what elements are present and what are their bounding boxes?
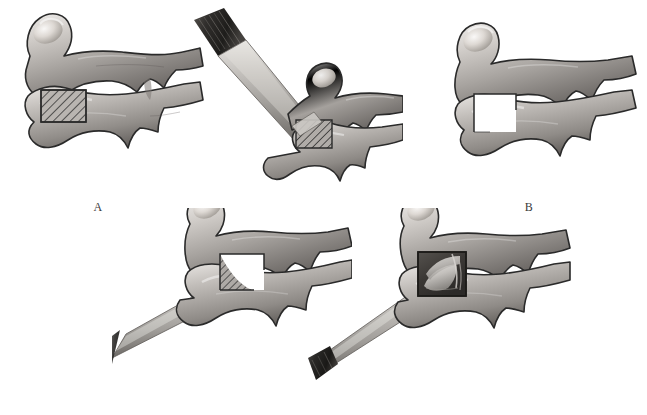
resection-zone-a <box>41 90 86 122</box>
excised-notch-c <box>474 94 516 132</box>
panel-a: A <box>0 4 215 199</box>
medical-figure: A <box>0 0 647 415</box>
panel-c: C <box>398 4 647 199</box>
bone-graft-block-e <box>418 252 466 296</box>
panel-b: B <box>188 4 403 199</box>
resection-zone-d <box>220 254 264 290</box>
panel-label-a: A <box>86 200 110 215</box>
panel-e: E <box>308 208 593 388</box>
lower-vertebra-b <box>264 122 404 181</box>
